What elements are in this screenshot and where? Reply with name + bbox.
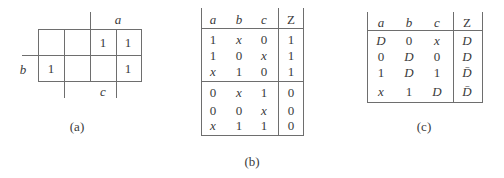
table-c-cell: D — [459, 34, 475, 47]
table-b-cell: 0 — [205, 104, 221, 117]
table-c-cell-dbar: D̄ — [459, 66, 475, 79]
table-c-cell-dbar: D̄ — [459, 85, 475, 98]
table-b-cell: 1 — [231, 65, 247, 78]
table-c-header: Z — [459, 16, 475, 29]
table-c-cell: D — [401, 50, 417, 63]
table-c-cell: 1 — [429, 66, 445, 79]
table-c-cell: D — [459, 50, 475, 63]
table-b-cell: 1 — [283, 49, 299, 62]
table-b-cell: 0 — [256, 33, 272, 46]
table-b-cell: 1 — [205, 49, 221, 62]
table-b-cell: 0 — [283, 86, 299, 99]
table-c-cell: D — [401, 66, 417, 79]
table-c-header: c — [429, 16, 445, 29]
table-b-cell: 0 — [205, 86, 221, 99]
table-c-cell: D — [373, 34, 389, 47]
table-b-cell: 1 — [231, 119, 247, 132]
table-b-cell: x — [231, 86, 247, 99]
kmap-var-c: c — [95, 85, 111, 98]
table-b-header: Z — [283, 13, 299, 26]
table-b-cell: 0 — [231, 49, 247, 62]
table-c-cell: D — [429, 85, 445, 98]
kmap-var-a: a — [110, 13, 126, 26]
table-b-cell: 1 — [256, 86, 272, 99]
kmap-cell: 1 — [120, 62, 136, 75]
table-b-cell: 1 — [256, 119, 272, 132]
kmap-col-divider-3 — [116, 29, 117, 98]
table-b-header: a — [205, 13, 221, 26]
kmap-cell: 1 — [43, 62, 59, 75]
table-c-left-border — [367, 12, 368, 102]
caption-b: (b) — [237, 155, 267, 168]
table-c-cell: x — [373, 85, 389, 98]
table-b-cell: 0 — [283, 119, 299, 132]
table-b-cell: 0 — [256, 65, 272, 78]
table-c-header: b — [401, 16, 417, 29]
kmap-col-divider-2 — [90, 12, 91, 82]
table-b-cell: x — [205, 119, 221, 132]
table-c-cell: 1 — [373, 66, 389, 79]
table-c-cell: 0 — [373, 50, 389, 63]
table-b-header: b — [231, 13, 247, 26]
kmap-col-divider-1 — [64, 29, 65, 98]
table-b-cell: x — [256, 104, 272, 117]
table-b-group-rule — [201, 81, 304, 82]
table-c-cell: 0 — [401, 34, 417, 47]
table-c-header-rule — [367, 30, 483, 31]
caption-a: (a) — [62, 120, 92, 133]
kmap-row-divider — [22, 55, 142, 56]
kmap-cell: 1 — [95, 36, 111, 49]
table-b-cell: 1 — [283, 33, 299, 46]
table-c-cell: 0 — [429, 50, 445, 63]
table-c-bottom-border — [367, 102, 483, 103]
table-b-cell: 1 — [283, 65, 299, 78]
table-b-cell: 1 — [205, 33, 221, 46]
kmap-cell: 1 — [120, 36, 136, 49]
table-b-bottom-border — [201, 135, 304, 136]
table-c-z-divider — [453, 12, 454, 102]
table-b-cell: x — [256, 49, 272, 62]
kmap-var-b: b — [15, 63, 31, 76]
table-c-cell: 1 — [401, 85, 417, 98]
table-c-right-border — [482, 12, 483, 102]
caption-c: (c) — [409, 120, 439, 133]
table-c-cell: x — [429, 34, 445, 47]
table-b-header-rule — [201, 28, 304, 29]
table-b-cell: 0 — [283, 104, 299, 117]
table-b-cell: x — [231, 33, 247, 46]
table-b-header: c — [256, 13, 272, 26]
table-b-cell: x — [205, 65, 221, 78]
table-c-header: a — [373, 16, 389, 29]
table-b-cell: 0 — [231, 104, 247, 117]
